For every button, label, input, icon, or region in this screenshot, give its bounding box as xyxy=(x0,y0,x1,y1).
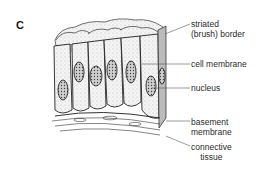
label-connective-tissue: connective tissue xyxy=(191,142,232,162)
connective-tissue xyxy=(52,112,160,135)
columnar-cells xyxy=(54,34,159,118)
label-nucleus: nucleus xyxy=(191,83,220,93)
label-cell-membrane: cell membrane xyxy=(191,59,247,69)
label-striated-border: striated (brush) border xyxy=(191,19,245,39)
label-basement-membrane: basement membrane xyxy=(191,117,232,137)
